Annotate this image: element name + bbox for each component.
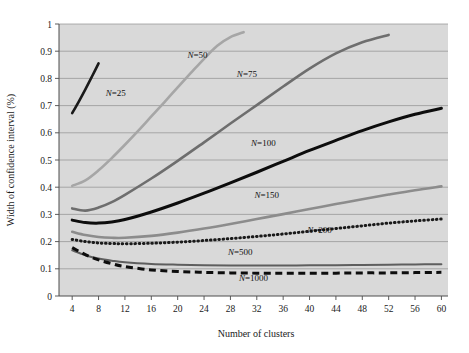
series-label-n150: N=150: [253, 190, 279, 200]
y-tick-label: 0.7: [40, 101, 52, 111]
y-tick-label: 0.6: [40, 128, 52, 138]
y-tick-label: 0.1: [40, 264, 52, 274]
y-tick-label: 0: [47, 292, 52, 302]
x-tick-label: 20: [173, 304, 183, 314]
y-axis-title: Width of confidence interval (%): [5, 94, 17, 226]
x-tick-label: 60: [437, 304, 447, 314]
y-tick-label: 0.3: [40, 210, 52, 220]
x-tick-label: 4: [70, 304, 75, 314]
x-tick-label: 52: [384, 304, 394, 314]
series-label-n75: N=75: [236, 69, 258, 79]
x-tick-label: 24: [199, 304, 209, 314]
series-label-n200: N=200: [306, 225, 332, 235]
x-tick-label: 56: [410, 304, 420, 314]
x-tick-label: 28: [226, 304, 236, 314]
x-tick-label: 36: [278, 304, 288, 314]
x-tick-label: 16: [147, 304, 157, 314]
y-tick-label: 0.5: [40, 156, 52, 166]
series-label-n500: N=500: [227, 247, 253, 257]
y-tick-label: 0.8: [40, 74, 52, 84]
x-axis-title: Number of clusters: [218, 328, 295, 339]
x-tick-label: 40: [305, 304, 315, 314]
x-tick-label: 8: [96, 304, 101, 314]
x-tick-label: 32: [252, 304, 262, 314]
series-label-n25: N=25: [105, 88, 127, 98]
series-label-n100: N=100: [250, 138, 276, 148]
chart-container: 00.10.20.30.40.50.60.70.80.91 4812162024…: [0, 0, 469, 353]
series-label-n1000: N=1000: [238, 273, 269, 283]
x-tick-label: 12: [120, 304, 130, 314]
series-label-n50: N=50: [186, 50, 208, 60]
x-tick-label: 48: [358, 304, 368, 314]
x-tick-label: 44: [331, 304, 341, 314]
y-tick-label: 0.9: [40, 47, 52, 57]
y-tick-label: 0.4: [40, 183, 52, 193]
confidence-interval-width-line-chart: 00.10.20.30.40.50.60.70.80.91 4812162024…: [0, 0, 469, 353]
y-tick-label: 1: [47, 20, 52, 30]
y-tick-label: 0.2: [40, 237, 52, 247]
